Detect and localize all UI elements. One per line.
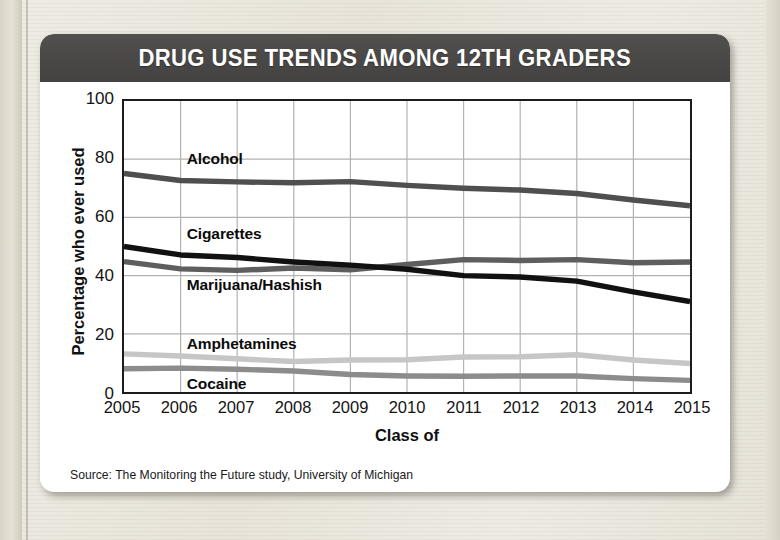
x-axis-title: Class of: [122, 426, 692, 445]
y-tick-label: 40: [72, 266, 114, 286]
x-axis-tick-labels: 2005200620072008200920102011201220132014…: [122, 398, 692, 424]
y-axis-tick-labels: 020406080100: [62, 82, 114, 492]
x-tick-label: 2007: [218, 398, 255, 417]
chart-title: DRUG USE TRENDS AMONG 12TH GRADERS: [139, 44, 632, 72]
page-background: DRUG USE TRENDS AMONG 12TH GRADERS Perce…: [0, 0, 780, 540]
x-tick-label: 2014: [617, 398, 654, 417]
series-line-alcohol: [124, 173, 690, 205]
page-gutter-rule: [26, 0, 28, 540]
series-label-cigarettes: Cigarettes: [187, 225, 262, 243]
series-label-marijuana-hashish: Marijuana/Hashish: [187, 276, 322, 294]
x-tick-label: 2006: [161, 398, 198, 417]
y-tick-label: 100: [72, 89, 114, 109]
series-label-cocaine: Cocaine: [187, 375, 247, 393]
page-right-edge: [766, 0, 780, 540]
series-label-alcohol: Alcohol: [187, 150, 243, 168]
series-label-amphetamines: Amphetamines: [187, 335, 297, 353]
y-tick-label: 20: [72, 325, 114, 345]
x-tick-label: 2015: [674, 398, 711, 417]
chart-body: Percentage who ever used 020406080100 Al…: [40, 82, 730, 492]
chart-card: DRUG USE TRENDS AMONG 12TH GRADERS Perce…: [40, 34, 730, 492]
x-tick-label: 2013: [560, 398, 597, 417]
y-tick-label: 80: [72, 148, 114, 168]
y-tick-label: 60: [72, 207, 114, 227]
source-note: Source: The Monitoring the Future study,…: [70, 468, 413, 482]
x-tick-label: 2012: [503, 398, 540, 417]
x-tick-label: 2005: [104, 398, 141, 417]
plot-area: AlcoholCigarettesMarijuana/HashishAmphet…: [122, 99, 692, 394]
page-gutter: [0, 0, 22, 540]
x-tick-label: 2010: [389, 398, 426, 417]
series-line-amphetamines: [124, 354, 690, 364]
x-tick-label: 2011: [446, 398, 481, 417]
chart-title-banner: DRUG USE TRENDS AMONG 12TH GRADERS: [40, 34, 730, 82]
x-tick-label: 2008: [275, 398, 312, 417]
x-tick-label: 2009: [332, 398, 369, 417]
